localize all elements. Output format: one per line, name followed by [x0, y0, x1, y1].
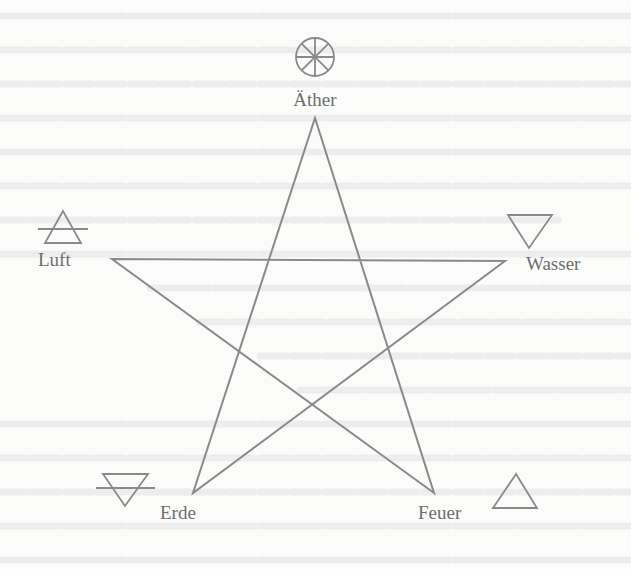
- label-feuer: Feuer: [418, 503, 461, 522]
- fire-triangle-icon: [493, 474, 537, 508]
- book-page: Äther Luft Wasser Erde Feuer: [0, 0, 631, 569]
- air-triangle-icon: [38, 211, 88, 243]
- label-erde: Erde: [160, 503, 196, 522]
- water-triangle-icon: [508, 215, 552, 248]
- earth-triangle-icon: [96, 474, 155, 506]
- aether-wheel-icon: [296, 38, 334, 76]
- label-aether: Äther: [293, 90, 336, 109]
- label-luft: Luft: [38, 250, 71, 269]
- pentagram-diagram: [0, 0, 631, 569]
- label-wasser: Wasser: [526, 254, 580, 273]
- pentagram-star: [112, 118, 505, 493]
